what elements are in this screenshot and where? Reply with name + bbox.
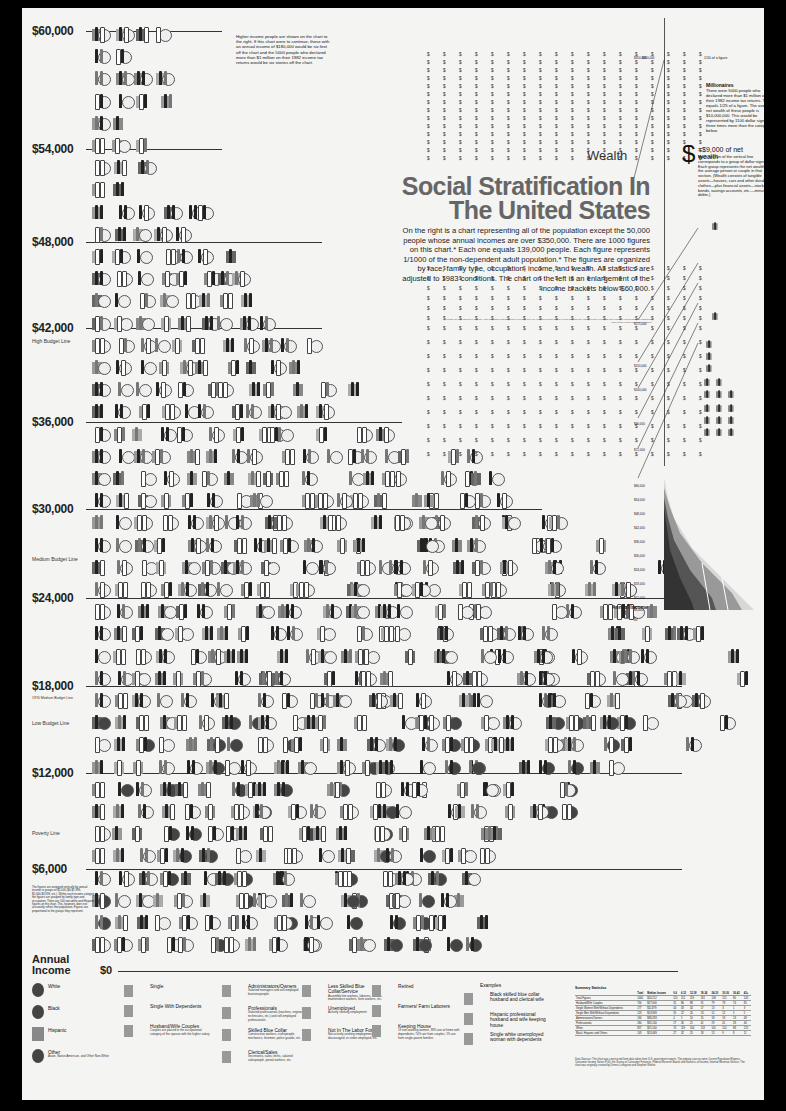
person-figure: [113, 648, 131, 664]
legend-family-2-icon: [124, 1023, 140, 1039]
person-figure: [92, 48, 110, 64]
legend-example-1: Hispanic professional husband and wife k…: [490, 1012, 552, 1028]
person-figure: [113, 847, 131, 863]
person-figure: [318, 648, 336, 664]
person-figure: [615, 625, 633, 641]
person-figure: [115, 781, 133, 797]
person-figure: [160, 292, 178, 308]
person-figure: [92, 603, 110, 619]
person-figure: [132, 426, 150, 442]
person-figure: [280, 537, 298, 553]
legend-other-2: Keeping HouseOf non-working women, 38% a…: [398, 1024, 460, 1040]
person-figure: [382, 759, 400, 775]
person-figure: [234, 870, 252, 886]
person-figure: [515, 625, 533, 641]
person-figure: [569, 648, 587, 664]
person-figure: [618, 581, 636, 597]
person-figure: [412, 581, 430, 597]
person-figure: [443, 714, 461, 730]
person-figure: [260, 825, 278, 841]
legend-race-hispanic-icon: [32, 1027, 44, 1041]
person-figure: [114, 603, 132, 619]
person-figure: [491, 736, 509, 752]
person-figure: [92, 781, 110, 797]
person-figure: [224, 470, 242, 486]
person-figure: [417, 759, 435, 775]
person-figure: [195, 403, 213, 419]
legend-family-1-icon: [124, 1003, 140, 1019]
person-figure: [474, 692, 492, 708]
person-figure: [337, 537, 355, 553]
person-figure: [134, 514, 152, 530]
person-figure: [173, 226, 191, 242]
person-figure: [179, 914, 197, 930]
person-figure: [482, 581, 500, 597]
person-figure: [463, 936, 481, 952]
person-figure: [138, 581, 156, 597]
person-figure: [621, 736, 639, 752]
person-figure: [300, 448, 318, 464]
person-figure: [136, 204, 154, 220]
person-figure: [182, 492, 200, 508]
person-figure: [92, 870, 110, 886]
person-figure: [175, 625, 193, 641]
person-figure: [113, 537, 131, 553]
person-figure: [154, 226, 172, 242]
person-figure: [341, 892, 359, 908]
person-figure: [199, 292, 217, 308]
person-figure: [315, 714, 333, 730]
person-figure: [205, 803, 223, 819]
person-figure: [139, 559, 157, 575]
person-figure: [113, 470, 131, 486]
person-figure: [185, 514, 203, 530]
person-figure: [138, 603, 156, 619]
person-figure: [92, 226, 110, 242]
person-figure: [234, 537, 252, 553]
person-figure: [298, 759, 316, 775]
person-figure: [139, 403, 157, 419]
person-figure: [559, 803, 577, 819]
summary-cell: 8: [732, 1031, 743, 1036]
person-figure: [138, 359, 156, 375]
summary-cell: 13: [710, 1031, 721, 1036]
higher-income-note: Higher income people are shown on the ch…: [236, 34, 332, 65]
person-figure: [472, 559, 490, 575]
person-figure: [395, 870, 413, 886]
person-figure: [354, 714, 372, 730]
person-figure: [112, 403, 130, 419]
legend-other-1-icon: [372, 1003, 388, 1019]
person-figure: [161, 315, 179, 331]
person-figure: [115, 670, 133, 686]
person-figure: [376, 426, 394, 442]
person-figure: [214, 315, 232, 331]
person-figure: [545, 559, 563, 575]
person-figure: [320, 514, 338, 530]
person-figure: [587, 670, 605, 686]
person-figure: [216, 692, 234, 708]
legend-example-1-icon: [464, 1011, 480, 1027]
person-figure: [154, 692, 172, 708]
person-figure: [320, 736, 338, 752]
person-figure: [162, 803, 180, 819]
legend-race-white-icon: [32, 983, 44, 997]
legend-family-0: Single: [150, 984, 212, 989]
person-figure: [239, 914, 257, 930]
person-figure: [224, 736, 242, 752]
legend-family-0-icon: [124, 983, 140, 999]
person-figure: [291, 736, 309, 752]
person-figure: [452, 537, 470, 553]
person-figure: [502, 514, 520, 530]
person-figure: [182, 803, 200, 819]
person-figure: [477, 847, 495, 863]
person-figure: [337, 759, 355, 775]
person-figure: [224, 603, 242, 619]
person-figure: [133, 226, 151, 242]
person-figure: [444, 670, 462, 686]
person-figure: [409, 781, 427, 797]
person-figure: [548, 581, 566, 597]
person-figure: [92, 93, 110, 109]
person-figure: [92, 137, 110, 153]
person-figure: [505, 803, 523, 819]
person-figure: [316, 403, 334, 419]
person-figure: [114, 315, 132, 331]
